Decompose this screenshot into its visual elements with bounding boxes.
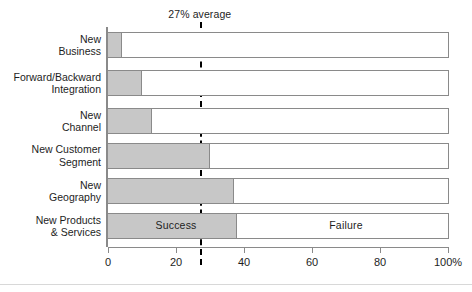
category-label: New Channel (0, 109, 101, 134)
x-axis-tick-label: 20 (170, 256, 182, 268)
category-label: New Business (0, 33, 101, 58)
x-axis-line (108, 247, 449, 248)
chart-figure: 27% average 020406080100% New BusinessFo… (0, 0, 472, 292)
category-label: New Geography (0, 179, 101, 204)
bar-segment-failure (107, 32, 449, 58)
series-label-failure: Failure (329, 219, 363, 231)
x-axis-tick (312, 247, 313, 253)
x-axis-tick (244, 247, 245, 253)
series-label-success: Success (155, 219, 196, 231)
x-axis-tick-label: 80 (374, 256, 386, 268)
x-axis-tick-label: 100% (434, 256, 462, 268)
bar-segment-success (107, 178, 234, 204)
x-axis-tick (176, 247, 177, 253)
x-axis-tick-label: 0 (105, 256, 111, 268)
x-axis-tick (108, 247, 109, 253)
bar-segment-success (107, 108, 152, 134)
bar-segment-success (107, 70, 142, 96)
x-axis-tick-label: 40 (238, 256, 250, 268)
x-axis-tick-label: 60 (306, 256, 318, 268)
bar-segment-failure (107, 70, 449, 96)
x-axis-tick (448, 247, 449, 253)
bar-segment-success (107, 32, 122, 58)
category-label: New Products & Services (0, 214, 101, 239)
average-annotation-label: 27% average (140, 8, 260, 20)
category-label: New Customer Segment (0, 143, 101, 168)
footer-divider (0, 284, 472, 285)
bar-segment-failure (107, 108, 449, 134)
category-label: Forward/Backward Integration (0, 71, 101, 96)
bar-segment-success (107, 143, 210, 169)
x-axis-tick (380, 247, 381, 253)
